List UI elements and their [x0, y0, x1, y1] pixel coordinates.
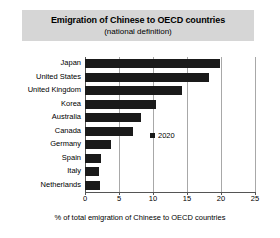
x-tick-label: 5	[107, 194, 131, 204]
x-tick-label: 25	[243, 194, 267, 204]
category-label: Netherlands	[1, 179, 81, 191]
bar-row: Japan	[85, 57, 255, 71]
bar	[85, 154, 101, 163]
bar-row: United Kingdom	[85, 84, 255, 98]
legend-square-marker-icon	[150, 133, 155, 138]
plot-area: JapanUnited StatesUnited KingdomKoreaAus…	[85, 57, 255, 192]
chart-title: Emigration of Chinese to OECD countries	[51, 15, 225, 26]
bar-row: Spain	[85, 152, 255, 166]
bar	[85, 73, 209, 82]
bar-row: Netherlands	[85, 179, 255, 193]
x-tick-label: 15	[175, 194, 199, 204]
bar-row: Italy	[85, 165, 255, 179]
bar-row: Australia	[85, 111, 255, 125]
legend-label: 2020	[158, 131, 175, 140]
category-label: Canada	[1, 125, 81, 137]
bar	[85, 86, 182, 95]
category-label: Spain	[1, 152, 81, 164]
bar	[85, 181, 100, 190]
x-tick-label: 10	[141, 194, 165, 204]
x-gridline	[255, 57, 256, 192]
x-tick-label: 20	[209, 194, 233, 204]
bar-row: Korea	[85, 98, 255, 112]
category-label: Italy	[1, 165, 81, 177]
bar	[85, 59, 220, 68]
category-label: United States	[1, 71, 81, 83]
category-label: Australia	[1, 111, 81, 123]
x-axis-title: % of total emigration of Chinese to OECD…	[0, 213, 280, 223]
chart-title-banner: Emigration of Chinese to OECD countries …	[22, 10, 254, 41]
bar	[85, 127, 133, 136]
category-label: Germany	[1, 138, 81, 150]
x-tick-label: 0	[73, 194, 97, 204]
category-label: Japan	[1, 57, 81, 69]
chart-subtitle: (national definition)	[104, 26, 172, 37]
bar-row: United States	[85, 71, 255, 85]
chart-figure: Emigration of Chinese to OECD countries …	[0, 0, 280, 238]
bar	[85, 140, 111, 149]
x-axis-line	[85, 192, 255, 193]
category-label: United Kingdom	[1, 84, 81, 96]
category-label: Korea	[1, 98, 81, 110]
bar-row: Germany	[85, 138, 255, 152]
chart-legend: 2020	[150, 131, 175, 140]
bar	[85, 113, 141, 122]
bar	[85, 100, 156, 109]
bar	[85, 167, 99, 176]
